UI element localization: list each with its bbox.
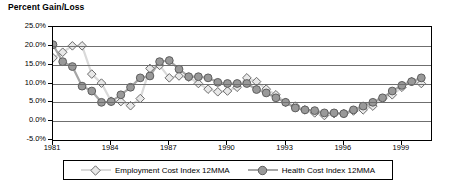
data-point: [388, 87, 396, 95]
data-point: [379, 94, 387, 102]
data-point: [253, 86, 261, 94]
y-axis-tick-label: 10.0%: [0, 78, 46, 87]
data-point: [185, 73, 193, 81]
y-axis-tick-label: 5.0%: [0, 96, 46, 105]
gridline-y: [53, 46, 431, 47]
legend-item-employment-cost-index[interactable]: Employment Cost Index 12MMA: [81, 165, 230, 175]
gridline-y: [53, 102, 431, 103]
data-point: [350, 106, 358, 114]
data-point: [194, 73, 202, 81]
data-point: [320, 109, 328, 117]
y-axis-tick-label: 25.0%: [0, 21, 46, 30]
gridline-y: [53, 121, 431, 122]
data-point: [146, 72, 154, 80]
y-axis-tick-mark: [48, 83, 52, 84]
y-axis-tick-label: 0.0%: [0, 115, 46, 124]
x-axis-tick-label: 1984: [90, 143, 130, 152]
x-axis-tick-label: 1999: [381, 143, 421, 152]
chart-container: Percent Gain/Loss Employment Cost Index …: [0, 0, 454, 189]
legend-marker-diamond-icon: [81, 165, 111, 175]
legend-label-employment: Employment Cost Index 12MMA: [115, 166, 230, 175]
y-axis-tick-mark: [48, 64, 52, 65]
y-axis-tick-label: -5.0%: [0, 134, 46, 143]
data-point: [175, 65, 183, 73]
x-axis-tick-label: 1987: [148, 143, 188, 152]
data-point: [136, 74, 144, 82]
data-point: [165, 57, 173, 65]
chart-title: Percent Gain/Loss: [8, 2, 84, 12]
data-point: [311, 107, 319, 115]
x-axis-tick-label: 1993: [265, 143, 305, 152]
y-axis-tick-mark: [48, 139, 52, 140]
y-axis-tick-mark: [48, 45, 52, 46]
plot-area: [52, 26, 432, 141]
legend-label-health: Health Cost Index 12MMA: [282, 166, 375, 175]
x-axis-tick-label: 1996: [323, 143, 363, 152]
legend-marker-circle-icon: [248, 165, 278, 175]
data-point: [88, 87, 96, 95]
data-point: [53, 41, 57, 49]
data-point: [223, 87, 232, 96]
data-point: [272, 94, 280, 102]
y-axis-tick-mark: [48, 26, 52, 27]
gridline-y: [53, 65, 431, 66]
x-axis-tick-label: 1990: [206, 143, 246, 152]
data-point: [359, 102, 367, 110]
data-point: [291, 104, 299, 112]
y-axis-tick-label: 15.0%: [0, 59, 46, 68]
data-point: [262, 89, 270, 97]
gridline-y: [53, 84, 431, 85]
chart-legend: Employment Cost Index 12MMA Health Cost …: [63, 160, 393, 180]
x-axis-tick-label: 1981: [32, 143, 72, 152]
data-point: [417, 74, 425, 82]
data-point: [301, 106, 309, 114]
data-point: [214, 78, 222, 86]
y-axis-tick-mark: [48, 101, 52, 102]
y-axis-tick-label: 20.0%: [0, 40, 46, 49]
data-point: [213, 87, 222, 96]
data-point: [330, 109, 338, 117]
data-point: [340, 110, 348, 118]
data-point: [127, 83, 135, 91]
data-point: [117, 91, 125, 99]
legend-item-health-cost-index[interactable]: Health Cost Index 12MMA: [248, 165, 375, 175]
data-point: [204, 74, 212, 82]
y-axis-tick-mark: [48, 120, 52, 121]
